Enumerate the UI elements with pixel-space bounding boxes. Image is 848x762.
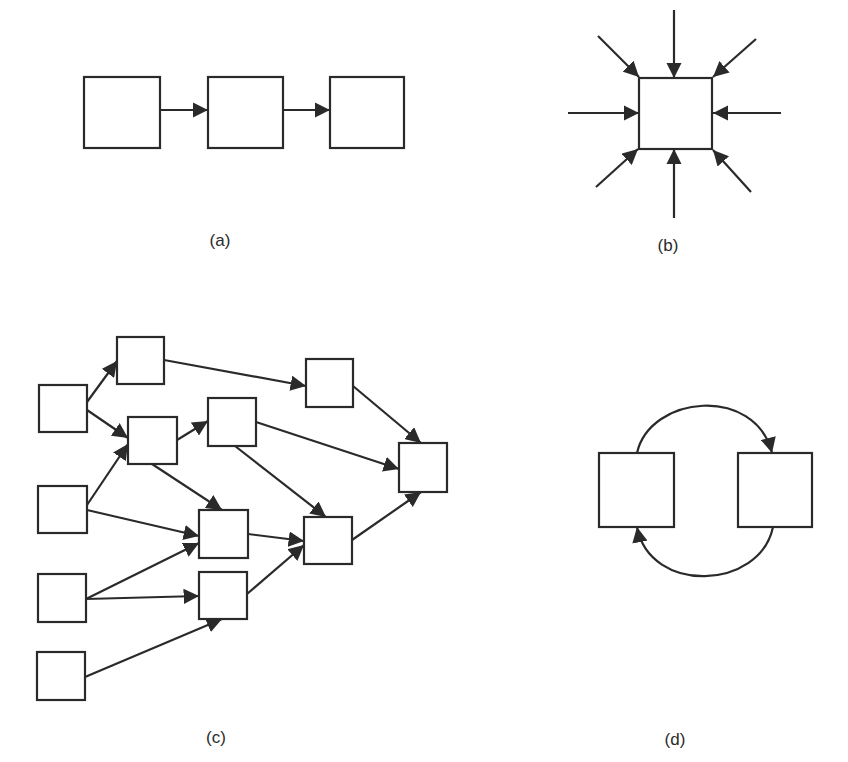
arrow-edge bbox=[87, 410, 128, 438]
node-box bbox=[639, 78, 712, 149]
node-box bbox=[304, 517, 352, 564]
node-box bbox=[208, 77, 283, 148]
panel-a-linear-chain: (a) bbox=[84, 77, 404, 250]
arrow-edge bbox=[177, 421, 208, 440]
arrow-edge bbox=[713, 39, 756, 77]
node-box bbox=[38, 486, 87, 533]
node-box bbox=[330, 77, 404, 148]
arrow-edge bbox=[352, 492, 421, 540]
arrow-edge bbox=[353, 386, 421, 443]
arrow-edge bbox=[713, 150, 751, 192]
node-box bbox=[199, 510, 248, 558]
figure-canvas: (a) (b) (c) (d) bbox=[0, 0, 848, 762]
arrow-edge bbox=[235, 446, 326, 517]
arrow-edge bbox=[256, 422, 399, 469]
panel-d-feedback-loop: (d) bbox=[599, 406, 812, 749]
arrow-edge bbox=[247, 545, 304, 594]
node-box bbox=[199, 572, 247, 619]
panel-label: (a) bbox=[210, 231, 231, 250]
node-box bbox=[37, 652, 85, 700]
arrow-edge bbox=[248, 534, 304, 541]
arrow-edge bbox=[85, 619, 222, 677]
node-box bbox=[399, 443, 447, 492]
arrow-edge bbox=[152, 464, 222, 510]
panel-label: (d) bbox=[665, 730, 686, 749]
arrow-edge bbox=[86, 596, 199, 599]
node-box bbox=[117, 337, 164, 384]
arrow-edge bbox=[598, 36, 639, 77]
node-box bbox=[128, 417, 177, 464]
node-box bbox=[599, 453, 674, 527]
node-box bbox=[306, 359, 353, 407]
panel-label: (b) bbox=[658, 236, 679, 255]
arrow-edge bbox=[87, 444, 128, 505]
arrow-edge bbox=[87, 510, 199, 536]
node-box bbox=[84, 77, 160, 148]
feedback-arc-arrow bbox=[637, 527, 773, 576]
panel-c-network: (c) bbox=[37, 337, 447, 747]
panel-b-converging-inputs: (b) bbox=[568, 10, 781, 255]
node-box bbox=[738, 453, 812, 527]
node-box bbox=[208, 398, 256, 446]
panel-label: (c) bbox=[206, 728, 226, 747]
node-box bbox=[38, 574, 86, 622]
arrow-edge bbox=[86, 543, 199, 599]
arrow-edge bbox=[87, 361, 117, 402]
arrow-edge bbox=[164, 360, 306, 386]
node-box bbox=[39, 385, 87, 432]
arrow-edge bbox=[596, 149, 638, 187]
feedback-arc-arrow bbox=[637, 406, 772, 453]
